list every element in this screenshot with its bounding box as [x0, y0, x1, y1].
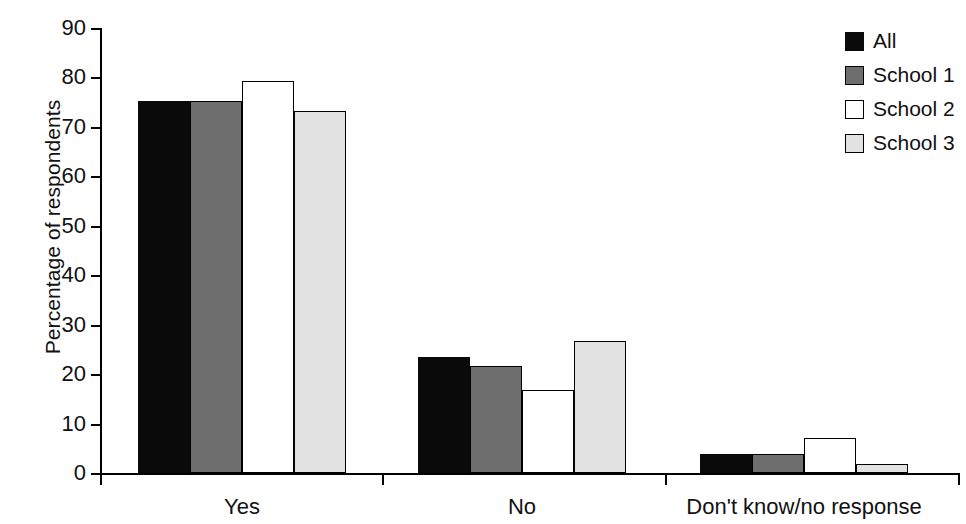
y-axis-tick: 20 — [91, 374, 100, 376]
y-axis-tick: 70 — [91, 127, 100, 129]
y-axis-tick-label: 50 — [62, 214, 86, 236]
bar-no-school-1 — [470, 366, 522, 473]
bar-yes-school-3 — [294, 111, 346, 473]
y-axis-tick: 50 — [91, 226, 100, 228]
bar-no-school-3 — [574, 341, 626, 473]
bar-yes-school-1 — [190, 101, 242, 473]
bar-don-t-know-no-response-school-2 — [804, 438, 856, 473]
bar-don-t-know-no-response-school-1 — [752, 454, 804, 473]
x-axis-tick — [665, 473, 667, 485]
legend-label-school-2: School 2 — [873, 97, 955, 121]
y-axis-tick: 10 — [91, 424, 100, 426]
legend-item-school-2: School 2 — [845, 92, 955, 126]
dark-gray-square-icon — [845, 66, 864, 85]
bar-chart: Percentage of respondents 01020304050607… — [0, 0, 966, 524]
y-axis-tick-label: 20 — [62, 363, 86, 385]
x-axis-group-label: Don't know/no response — [686, 494, 921, 520]
y-axis-tick-label: 60 — [62, 165, 86, 187]
x-axis-tick — [382, 473, 384, 485]
y-axis-tick: 30 — [91, 325, 100, 327]
black-square-icon — [845, 32, 864, 51]
x-axis-group-label: Yes — [224, 494, 260, 520]
y-axis-tick: 90 — [91, 28, 100, 30]
legend-item-all: All — [845, 24, 955, 58]
bar-don-t-know-no-response-school-3 — [856, 464, 908, 473]
y-axis-tick: 40 — [91, 275, 100, 277]
bar-yes-school-2 — [242, 81, 294, 473]
y-axis-tick-label: 40 — [62, 264, 86, 286]
bar-don-t-know-no-response-all — [700, 454, 752, 473]
y-axis-tick-label: 10 — [62, 412, 86, 434]
legend: All School 1 School 2 School 3 — [845, 24, 955, 160]
y-axis-tick-label: 90 — [62, 17, 86, 39]
x-axis-line — [100, 473, 960, 475]
y-axis-tick-label: 80 — [62, 66, 86, 88]
light-gray-square-icon — [845, 134, 864, 153]
legend-label-school-1: School 1 — [873, 63, 955, 87]
y-axis-tick: 0 — [91, 473, 100, 475]
white-square-icon — [845, 100, 864, 119]
y-axis-line — [100, 28, 102, 475]
x-axis-group-label: No — [508, 494, 536, 520]
plot-area: 0102030405060708090 YesNoDon't know/no r… — [100, 28, 960, 473]
bar-yes-all — [138, 101, 190, 473]
bar-no-school-2 — [522, 390, 574, 473]
legend-item-school-3: School 3 — [845, 126, 955, 160]
legend-item-school-1: School 1 — [845, 58, 955, 92]
x-axis-tick — [100, 473, 102, 485]
y-axis-tick-label: 70 — [62, 115, 86, 137]
legend-label-school-3: School 3 — [873, 131, 955, 155]
y-axis-tick-label: 30 — [62, 313, 86, 335]
y-axis-tick-label: 0 — [74, 462, 86, 484]
bar-no-all — [418, 357, 470, 473]
y-axis-tick: 80 — [91, 77, 100, 79]
y-axis-tick: 60 — [91, 176, 100, 178]
legend-label-all: All — [873, 29, 896, 53]
x-axis-tick — [958, 473, 960, 485]
